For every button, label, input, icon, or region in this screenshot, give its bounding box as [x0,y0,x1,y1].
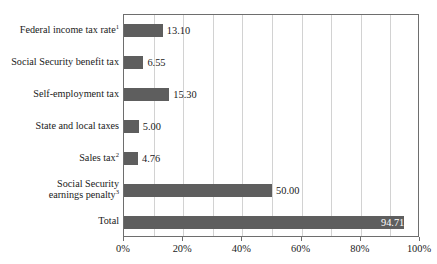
footnote-marker: 1 [116,23,119,30]
bar-value-label: 15.30 [169,88,196,101]
x-tick-label: 40% [218,243,264,254]
bar-value-label: 94.71 [124,216,409,229]
footnote-marker: 3 [116,188,119,195]
x-tick-mark [419,237,420,241]
bar [124,56,143,69]
bar-value-label: 50.00 [272,184,299,197]
bar [124,24,163,37]
bar [124,152,138,165]
plot-area: 13.106.5515.305.004.7650.0094.71 [123,14,419,237]
category-label: Federal income tax rate1 [0,24,119,35]
category-axis-labels: Federal income tax rate1Social Security … [0,14,119,237]
x-tick-label: 60% [278,243,324,254]
gridline-80 [361,15,362,236]
bar [124,120,139,133]
x-tick-mark [301,237,302,241]
gridline-30 [213,15,214,236]
bar-value-label: 6.55 [143,56,165,69]
footnote-marker: 2 [116,150,119,157]
gridline-90 [390,15,391,236]
x-tick-label: 100% [396,243,437,254]
bar-value-label: 4.76 [138,152,160,165]
x-tick-mark [360,237,361,241]
x-tick-label: 0% [100,243,146,254]
x-tick-mark [241,237,242,241]
category-label: Social Securityearnings penalty3 [0,178,119,200]
gridline-70 [331,15,332,236]
bar [124,88,169,101]
bar-value-label: 13.10 [163,24,190,37]
gridline-60 [302,15,303,236]
bar [124,184,272,197]
bar-value-label: 5.00 [139,120,161,133]
gridline-50 [272,15,273,236]
x-tick-label: 20% [159,243,205,254]
category-label: Social Security benefit tax [0,56,119,67]
chart-title-sliver [150,0,437,3]
bar-chart: Federal income tax rate1Social Security … [0,0,437,264]
category-label: Sales tax2 [0,152,119,163]
category-label: State and local taxes [0,120,119,131]
x-tick-mark [123,237,124,241]
gridline-40 [242,15,243,236]
category-label: Self-employment tax [0,88,119,99]
gridline-20 [183,15,184,236]
category-label: Total [0,215,119,226]
x-tick-label: 80% [337,243,383,254]
x-tick-mark [182,237,183,241]
